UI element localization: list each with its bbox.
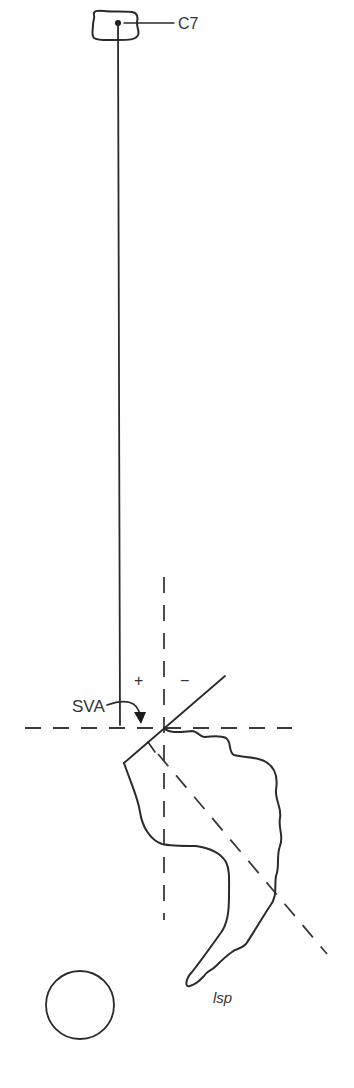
sacral-perpendicular-dashed xyxy=(158,754,327,954)
sva-label: SVA xyxy=(72,697,105,716)
c7-label: C7 xyxy=(178,15,199,32)
sva-arrowhead-icon xyxy=(134,712,146,724)
sacrum-label: lsp xyxy=(213,989,232,1006)
endplate-tick xyxy=(148,742,155,752)
plus-sign: + xyxy=(134,672,143,689)
femoral-head-circle xyxy=(46,971,114,1039)
sva-arrow-line xyxy=(107,702,140,716)
sacrum-label-group: lsp xyxy=(213,989,232,1006)
minus-sign: − xyxy=(180,672,189,689)
c7-plumb-line xyxy=(118,23,120,725)
sva-annotation: SVA xyxy=(72,697,146,724)
sva-diagram: C7 + − SVA lsp xyxy=(0,0,354,1088)
c7-vertebra: C7 xyxy=(92,11,198,41)
sacrum-outline xyxy=(124,728,281,986)
